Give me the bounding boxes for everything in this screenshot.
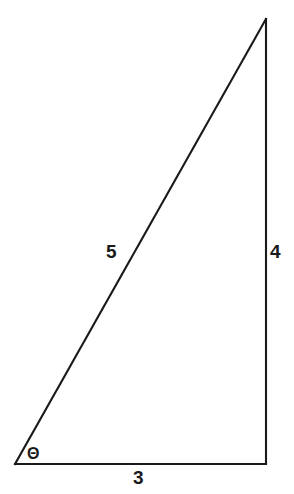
triangle-figure: 5 4 3 Θ <box>0 0 294 494</box>
triangle-hypotenuse-edge <box>15 19 266 464</box>
triangle-drawing <box>0 0 294 494</box>
theta-angle-label: Θ <box>27 446 39 462</box>
hypotenuse-label: 5 <box>106 242 117 261</box>
vertical-side-label: 4 <box>270 242 281 261</box>
base-side-label: 3 <box>133 468 144 487</box>
